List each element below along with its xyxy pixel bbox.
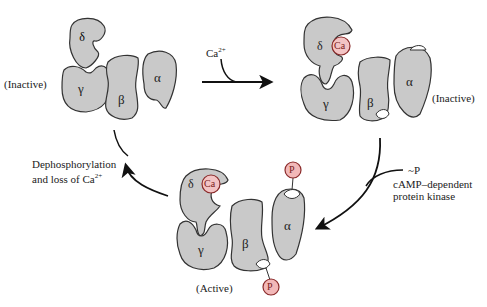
dephos-label-line2: and loss of Ca2+ — [32, 170, 102, 185]
state-label-inactive-1: (Inactive) — [4, 78, 47, 90]
delta-label-3: δ — [188, 178, 194, 190]
ca-label-2: Ca — [334, 40, 345, 52]
phosphate-label: ~P — [408, 164, 420, 176]
alpha-phospho-site — [410, 46, 426, 51]
dephosphorylation-arrow — [126, 166, 168, 196]
kinase-label-line1: cAMP–dependent — [393, 178, 472, 190]
gamma-subunit — [62, 66, 110, 112]
gamma-label-2: γ — [323, 98, 329, 110]
gamma-label-3: γ — [198, 244, 204, 256]
alpha-label-1: α — [154, 72, 161, 84]
delta-subunit — [70, 18, 105, 68]
ca-label-3: Ca — [204, 178, 215, 190]
calcium-branch-line — [221, 59, 236, 82]
dephos-label-line1: Dephosphorylation — [32, 158, 116, 170]
delta-label-2: δ — [317, 40, 323, 52]
state-label-active: (Active) — [196, 282, 233, 294]
phosphorylation-arrow — [318, 138, 380, 228]
alpha-phospho-site — [284, 190, 300, 199]
beta-label-2: β — [367, 97, 374, 109]
svg-text:δ: δ — [79, 30, 85, 44]
calcium-label: Ca2+ — [206, 44, 226, 59]
beta-subunit — [106, 55, 139, 119]
alpha-label-3: α — [284, 220, 291, 232]
diagram-canvas: δ — [0, 0, 487, 307]
p-label-alpha: P — [289, 164, 295, 176]
kinase-label-line2: protein kinase — [393, 190, 455, 202]
state-label-inactive-2: (Inactive) — [432, 92, 475, 104]
delta-label: γ — [78, 83, 84, 95]
alpha-label-2: α — [406, 76, 413, 88]
beta-label-1: β — [118, 94, 125, 106]
p-label-beta: P — [267, 281, 273, 293]
beta-label-3: β — [242, 238, 249, 250]
dephos-upper-line — [114, 130, 128, 156]
